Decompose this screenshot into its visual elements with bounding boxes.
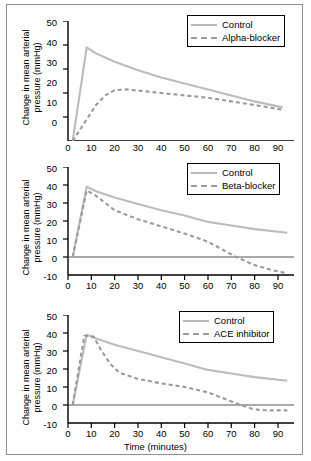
series-line-ace-inhibitor [73,336,288,411]
y-axis-title-line1: Change in mean arterial [21,179,31,275]
y-tick-label: 50 [35,163,57,174]
y-axis-title-line1: Change in mean arterial [21,329,31,425]
x-tick-label: 70 [223,428,239,439]
legend-label-control: Control [214,315,245,326]
x-tick-label: 70 [223,280,239,291]
x-tick-label: 80 [247,142,263,153]
legend-label-control: Control [222,167,253,178]
y-tick-label: 20 [35,77,57,88]
legend-label-beta-blocker: Beta-blocker [222,180,275,191]
x-tick-label: 30 [130,142,146,153]
x-tick-label: 60 [200,142,216,153]
legend-item-control: Control [191,18,280,31]
legend-line-dashed-icon [191,185,217,187]
y-tick-label: 30 [35,199,57,210]
y-tick-label: 0 [35,253,57,264]
y-tick-label: 40 [35,37,57,48]
x-tick-label: 60 [200,428,216,439]
x-tick-label: 40 [153,142,169,153]
legend-line-solid-icon [191,172,217,174]
series-line-beta-blocker [73,190,288,273]
y-tick-label: 0 [35,117,57,128]
y-tick-label: 50 [35,17,57,28]
legend-line-solid-icon [191,24,217,26]
x-tick-label: 40 [153,428,169,439]
chart-panel-alpha-blocker: Change in mean arterial pressure (mmHg) … [7,5,304,155]
x-tick-label: 0 [60,428,76,439]
x-tick-label: 20 [107,142,123,153]
x-tick-label: 80 [247,428,263,439]
legend-panel-1: Control Alpha-blocker [187,15,285,47]
y-tick-label: 10 [35,383,57,394]
series-line-alpha-blocker [73,89,283,141]
legend-line-dashed-icon [191,37,217,39]
y-tick-label: 20 [35,217,57,228]
x-tick-label: 90 [270,142,286,153]
x-axis-title: Time (minutes) [7,441,304,452]
legend-label-ace-inhibitor: ACE inhibitor [214,328,269,339]
chart-panel-beta-blocker: Change in mean arterial pressure (mmHg) … [7,155,304,305]
x-tick-label: 70 [223,142,239,153]
y-tick-label: 10 [35,97,57,108]
legend-item-control: Control [191,166,275,179]
y-tick-label: 40 [35,181,57,192]
legend-label-control: Control [222,19,253,30]
series-line-control [73,47,283,141]
x-tick-label: 20 [107,280,123,291]
y-tick-label: 40 [35,329,57,340]
x-tick-label: 60 [200,280,216,291]
y-tick-label: 20 [35,365,57,376]
legend-label-alpha-blocker: Alpha-blocker [222,32,280,43]
legend-panel-3: Control ACE inhibitor [179,311,274,343]
y-tick-label: 10 [35,235,57,246]
y-tick-label: 30 [35,57,57,68]
y-tick-label: 50 [35,311,57,322]
x-tick-label: 40 [153,280,169,291]
legend-item-ace-inhibitor: ACE inhibitor [183,327,269,340]
legend-line-dashed-icon [183,333,209,335]
figure-container: Change in mean arterial pressure (mmHg) … [6,4,303,455]
legend-panel-2: Control Beta-blocker [187,163,280,195]
x-tick-label: 10 [83,142,99,153]
x-tick-label: 30 [130,280,146,291]
x-tick-label: 80 [247,280,263,291]
x-tick-label: 50 [177,280,193,291]
y-tick-label: -10 [29,419,57,430]
legend-item-alpha-blocker: Alpha-blocker [191,31,280,44]
legend-line-solid-icon [183,320,209,322]
x-tick-label: 10 [83,428,99,439]
x-tick-label: 50 [177,428,193,439]
y-tick-label: 30 [35,347,57,358]
x-tick-label: 20 [107,428,123,439]
x-tick-label: 50 [177,142,193,153]
y-tick-label: -10 [29,271,57,282]
x-tick-label: 10 [83,280,99,291]
x-tick-label: 90 [270,280,286,291]
legend-item-beta-blocker: Beta-blocker [191,179,275,192]
x-tick-label: 30 [130,428,146,439]
y-axis-title-line1: Change in mean arterial [21,29,31,125]
series-line-control [73,187,288,257]
chart-panel-ace-inhibitor: Change in mean arterial pressure (mmHg) … [7,305,304,454]
y-tick-label: 0 [35,401,57,412]
x-tick-label: 0 [60,142,76,153]
x-tick-label: 0 [60,280,76,291]
x-tick-label: 90 [270,428,286,439]
series-line-control [73,335,288,405]
legend-item-control: Control [183,314,269,327]
